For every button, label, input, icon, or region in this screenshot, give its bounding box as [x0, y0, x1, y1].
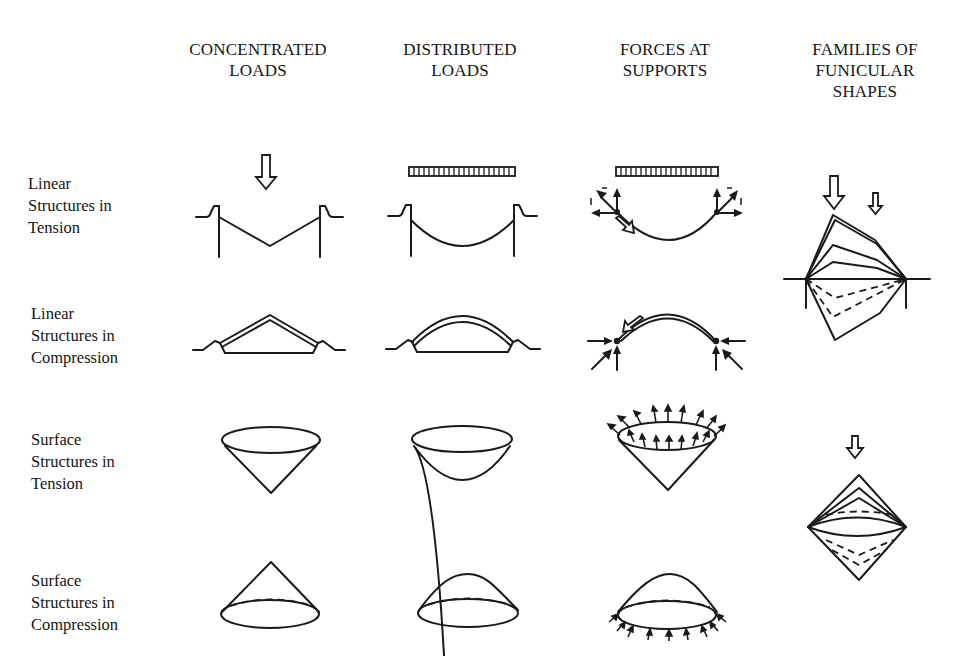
arrow-icon: [679, 436, 684, 441]
load-arrow-large-icon: [824, 176, 844, 209]
arrow-up-icon: [712, 345, 720, 354]
cable-concentrated-load-diagram: [196, 155, 343, 257]
membrane-cone-concentrated-diagram: [222, 427, 320, 493]
arrow-icon: [608, 424, 615, 429]
arrow-left-icon: [591, 209, 600, 217]
arrow-icon: [647, 629, 652, 635]
arrow-icon: [628, 430, 633, 435]
arrow-icon: [701, 626, 706, 632]
membrane-family-diagram: [808, 436, 906, 580]
arrow-icon: [640, 434, 645, 439]
arch-support-forces-diagram: [588, 315, 745, 371]
arrow-up-icon: [713, 188, 721, 197]
shell-support-forces-diagram: [609, 574, 726, 641]
membrane-support-forces-diagram: [608, 405, 725, 490]
arrow-icon: [654, 436, 659, 441]
arrow-icon: [666, 436, 672, 441]
arrow-icon: [693, 433, 698, 439]
arrow-right-icon: [604, 337, 613, 345]
arrow-icon: [680, 406, 685, 412]
arrow-diagonal-icon: [596, 190, 607, 199]
shell-cone-concentrated-diagram: [221, 562, 319, 628]
arrow-icon: [666, 630, 672, 636]
arrow-up-icon: [613, 188, 621, 197]
arrow-icon: [618, 416, 625, 421]
arrow-right-icon: [734, 209, 743, 217]
load-arrow-icon: [847, 436, 863, 458]
arrow-icon: [704, 431, 709, 437]
arrow-icon: [634, 411, 640, 416]
tangent-force-arrow-icon: [623, 316, 643, 332]
arch-distributed-load-diagram: [386, 316, 540, 352]
arch-concentrated-load-diagram: [193, 315, 345, 353]
funicular-family-diagram: [784, 176, 930, 340]
arrow-icon: [684, 629, 689, 635]
load-arrow-small-icon: [869, 193, 882, 214]
cable-support-forces-diagram: [591, 167, 743, 240]
load-arrow-icon: [256, 155, 276, 189]
arrow-icon: [628, 626, 633, 632]
arrow-icon: [698, 411, 703, 417]
arrow-icon: [665, 405, 671, 411]
shell-dome-distributed-diagram: [418, 574, 518, 627]
arrow-up-icon: [613, 345, 621, 354]
arrow-icon: [652, 406, 657, 411]
diagram-canvas: [0, 0, 955, 656]
arrow-left-icon: [720, 337, 729, 345]
cable-distributed-load-diagram: [388, 167, 537, 256]
